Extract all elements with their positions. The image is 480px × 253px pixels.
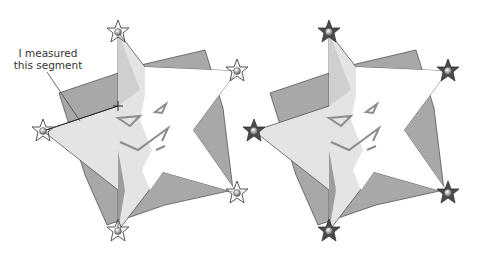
star-handle-icon[interactable] [32,119,54,141]
star-handle-icon[interactable] [243,119,265,141]
right-figure [243,20,459,241]
star-character [43,32,237,231]
left-figure [32,20,248,241]
star-character [254,32,448,231]
diagram-canvas [0,0,480,253]
